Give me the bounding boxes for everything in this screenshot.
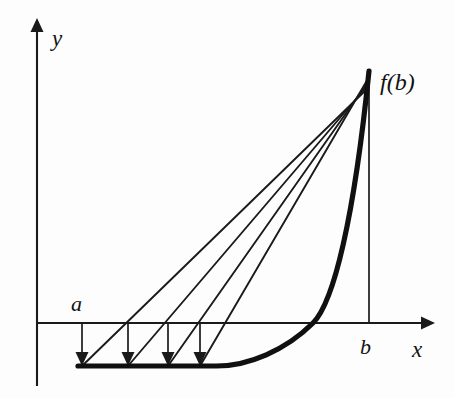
drop-arrows-group: [76, 324, 207, 366]
point-b-label: b: [360, 334, 371, 359]
y-axis-arrow-icon: [31, 18, 44, 32]
x-axis-label: x: [411, 337, 423, 362]
figure-root: y x a b f(b): [0, 0, 455, 398]
function-curve-group: [78, 71, 369, 366]
diagram-canvas: y x a b f(b): [0, 0, 455, 398]
point-a-label: a: [71, 291, 82, 316]
function-value-label: f(b): [380, 69, 415, 95]
drop-arrow-1: [76, 324, 89, 366]
axes-group: [31, 18, 436, 386]
y-axis-label: y: [50, 26, 63, 51]
function-curve: [78, 71, 369, 366]
x-axis-arrow-icon: [421, 317, 435, 330]
